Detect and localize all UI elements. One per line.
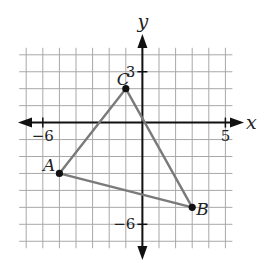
coordinate-plane: x y −653−6 ABC: [0, 0, 270, 276]
y-axis-bottom-arrow-icon: [137, 246, 147, 260]
vertex-b: [189, 204, 196, 211]
y-axis-top-arrow-icon: [137, 34, 147, 48]
y-tick-label: −6: [113, 215, 135, 233]
vertex-label-c: C: [117, 69, 130, 89]
vertex-label-a: A: [41, 155, 55, 175]
x-axis-label: x: [246, 111, 257, 133]
x-tick-label: −6: [32, 127, 54, 145]
vertex-a: [56, 170, 63, 177]
vertex-label-b: B: [195, 199, 209, 219]
y-axis-label: y: [136, 10, 148, 32]
x-axis-right-arrow-icon: [230, 118, 244, 128]
x-axis-left-arrow-icon: [18, 118, 32, 128]
vertices: ABC: [41, 69, 209, 220]
x-tick-label: 5: [221, 127, 231, 145]
